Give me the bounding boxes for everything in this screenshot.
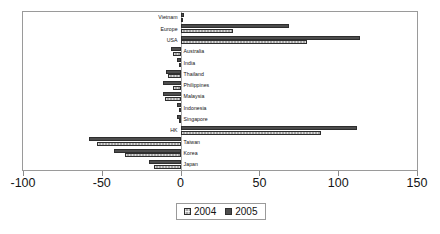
bar-2005-australia <box>171 47 180 51</box>
category-label-japan: Japan <box>184 161 198 167</box>
legend-label-2004: 2004 <box>194 206 216 217</box>
series-2004-swatch <box>184 208 191 215</box>
legend-item-2005: 2005 <box>225 206 257 217</box>
category-label-singapore: Singapore <box>184 116 208 122</box>
bar-2004-india <box>179 63 181 67</box>
x-tick-label: 50 <box>252 176 266 190</box>
category-label-india: India <box>184 60 196 66</box>
bar-row: Japan <box>23 159 417 170</box>
bar-2005-usa <box>181 36 361 40</box>
bar-2005-malaysia <box>163 92 180 96</box>
x-tick-label: -100 <box>10 176 35 190</box>
bar-2004-philippines <box>173 86 181 90</box>
x-tick-label: 150 <box>407 176 428 190</box>
category-label-thailand: Thailand <box>184 71 204 77</box>
bar-2004-japan <box>154 165 181 169</box>
bar-row: USA <box>23 35 417 46</box>
category-label-australia: Australia <box>184 48 205 54</box>
bar-2004-korea <box>125 153 180 157</box>
x-tick-label: 0 <box>177 176 184 190</box>
plot-area: VietnamEuropeUSAAustraliaIndiaThailandPh… <box>22 11 418 171</box>
bar-2005-singapore <box>177 115 180 119</box>
bar-2004-malaysia <box>165 97 181 101</box>
bar-row: Vietnam <box>23 12 417 23</box>
bar-2005-japan <box>149 160 181 164</box>
bar-2004-taiwan <box>97 142 181 146</box>
bar-2004-singapore <box>179 119 181 123</box>
bar-2005-hk <box>181 126 358 130</box>
bar-2004-vietnam <box>181 18 183 22</box>
bar-2004-thailand <box>168 74 181 78</box>
category-label-korea: Korea <box>184 150 198 156</box>
bar-row: Singapore <box>23 114 417 125</box>
chart-legend: 2004 2005 <box>176 203 266 220</box>
bar-2004-hk <box>181 131 321 135</box>
bar-2005-indonesia <box>177 103 180 107</box>
x-tick-label: 100 <box>328 176 349 190</box>
bar-row: India <box>23 57 417 68</box>
bar-2004-australia <box>173 52 181 56</box>
bar-2005-taiwan <box>89 137 180 141</box>
bar-2004-usa <box>181 40 307 44</box>
bar-2004-indonesia <box>179 108 181 112</box>
bar-chart: VietnamEuropeUSAAustraliaIndiaThailandPh… <box>0 0 440 234</box>
category-label-vietnam: Vietnam <box>158 14 177 20</box>
bar-2005-korea <box>114 149 180 153</box>
legend-item-2004: 2004 <box>184 206 216 217</box>
category-label-europe: Europe <box>161 26 178 32</box>
legend-label-2005: 2005 <box>235 206 257 217</box>
bar-2004-europe <box>181 29 233 33</box>
series-2005-swatch <box>225 208 232 215</box>
category-label-indonesia: Indonesia <box>184 105 207 111</box>
x-tick-label: -50 <box>93 176 111 190</box>
category-label-malaysia: Malaysia <box>184 93 205 99</box>
bar-2005-europe <box>181 24 290 28</box>
bar-row: Europe <box>23 23 417 34</box>
bar-row: Australia <box>23 46 417 57</box>
category-label-philippines: Philippines <box>184 82 210 88</box>
bar-row: Malaysia <box>23 91 417 102</box>
bar-2005-thailand <box>166 70 180 74</box>
category-label-taiwan: Taiwan <box>184 139 200 145</box>
bar-row: HK <box>23 125 417 136</box>
x-axis-tick-labels: -100-50050100150 <box>0 176 440 192</box>
bar-2005-vietnam <box>181 13 184 17</box>
bar-2005-philippines <box>163 81 180 85</box>
bar-2005-india <box>177 58 180 62</box>
plot-inner: VietnamEuropeUSAAustraliaIndiaThailandPh… <box>23 12 417 170</box>
bar-row: Korea <box>23 147 417 158</box>
category-label-hk: HK <box>170 127 177 133</box>
bar-row: Thailand <box>23 68 417 79</box>
bar-row: Indonesia <box>23 102 417 113</box>
bar-row: Taiwan <box>23 136 417 147</box>
category-label-usa: USA <box>167 37 178 43</box>
bar-row: Philippines <box>23 80 417 91</box>
